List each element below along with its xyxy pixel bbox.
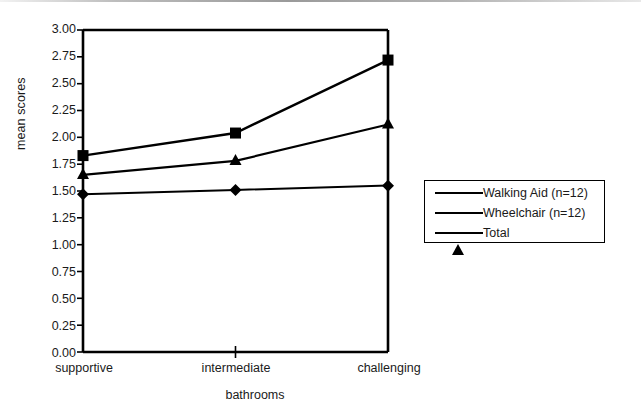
legend-item-walking-aid: Walking Aid (n=12) (425, 182, 606, 203)
legend-item-wheelchair: Wheelchair (n=12) (425, 202, 606, 223)
square-marker-icon (433, 203, 485, 223)
legend-label: Wheelchair (n=12) (483, 206, 585, 220)
x-tick-label-challenging: challenging (357, 361, 420, 375)
walking-aid-markers (77, 180, 394, 201)
diamond-marker-icon (433, 183, 485, 203)
x-tick-label-intermediate: intermediate (202, 361, 271, 375)
total-markers (77, 117, 394, 178)
x-tick-label-supportive: supportive (55, 361, 113, 375)
series-total (77, 117, 394, 178)
legend-label: Walking Aid (n=12) (483, 186, 588, 200)
legend-item-total: Total (425, 222, 606, 243)
chart-legend: Walking Aid (n=12) Wheelchair (n=12) Tot… (424, 180, 605, 243)
triangle-marker-icon (433, 223, 485, 243)
line-chart: mean scores 3.00 2.75 2.50 2.25 2.00 1.7… (0, 0, 641, 417)
series-walking-aid (77, 180, 394, 201)
wheelchair-line (83, 60, 388, 156)
series-wheelchair (78, 55, 394, 162)
legend-label: Total (483, 226, 509, 240)
x-axis-title: bathrooms (195, 388, 315, 402)
wheelchair-markers (78, 55, 394, 162)
